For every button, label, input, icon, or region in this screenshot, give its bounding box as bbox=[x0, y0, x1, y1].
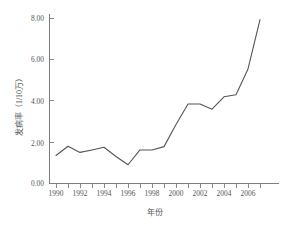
y-tick-label: 6.00 bbox=[31, 55, 44, 64]
x-tick-label: 1990 bbox=[49, 189, 64, 198]
y-axis-title: 发病率（1/10万） bbox=[14, 74, 24, 136]
x-tick-label: 2000 bbox=[169, 189, 184, 198]
y-tick-label: 0.00 bbox=[31, 179, 44, 188]
x-tick-label: 1998 bbox=[145, 189, 160, 198]
incidence-rate-line-chart: 8.00 6.00 4.00 2.00 0.00 bbox=[0, 0, 283, 229]
x-tick-label: 1992 bbox=[73, 189, 88, 198]
x-axis-title: 年份 bbox=[147, 207, 163, 217]
x-axis-tick-labels: 1990 1992 1994 1996 1998 2000 2002 2004 … bbox=[49, 189, 256, 198]
y-tick-label: 4.00 bbox=[31, 97, 44, 106]
x-tick-label: 1996 bbox=[121, 189, 136, 198]
x-tick-label: 1994 bbox=[97, 189, 112, 198]
x-tick-label: 2006 bbox=[241, 189, 256, 198]
x-axis-ticks bbox=[56, 184, 260, 188]
x-tick-label: 2004 bbox=[217, 189, 232, 198]
chart-canvas: 8.00 6.00 4.00 2.00 0.00 bbox=[0, 0, 283, 229]
x-tick-label: 2002 bbox=[193, 189, 208, 198]
y-tick-label: 8.00 bbox=[31, 14, 44, 23]
incidence-rate-series-line bbox=[56, 20, 260, 165]
y-axis-tick-labels: 8.00 6.00 4.00 2.00 0.00 bbox=[31, 14, 44, 188]
y-axis-ticks bbox=[50, 19, 55, 184]
y-tick-label: 2.00 bbox=[31, 139, 44, 148]
